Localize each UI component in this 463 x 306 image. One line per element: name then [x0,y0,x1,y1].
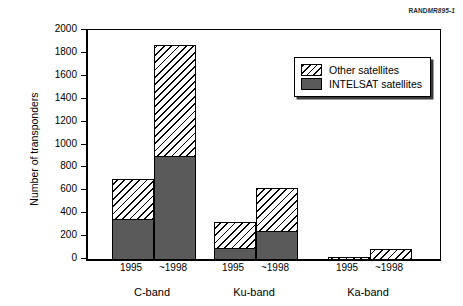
legend-swatch-solid-icon [301,78,322,90]
bar-segment-solid [154,156,196,259]
bar-c-band-1995 [112,179,154,259]
x-axis-tick-label: ~1998 [375,262,403,273]
bar-c-band-approx1998 [154,45,196,259]
y-axis-tick: 800 [81,166,88,167]
bar-ku-band-approx1998 [256,188,298,259]
bar-segment-hatch [112,179,154,219]
y-axis-tick: 600 [81,189,88,190]
bar-ka-band-approx1998 [370,249,412,259]
legend-label: INTELSAT satellites [329,78,422,90]
legend-swatch-hatch-icon [301,64,322,76]
x-axis-group-label: C-band [134,286,170,298]
y-axis-title: Number of transponders [28,54,40,244]
y-axis-tick-label: 1800 [55,46,77,57]
y-axis-tick: 400 [81,212,88,213]
y-axis-tick: 2000 [81,29,88,30]
y-axis-tick: 1200 [81,121,88,122]
x-axis-tick-label: 1995 [336,262,358,273]
y-axis-tick-label: 800 [60,160,77,171]
bar-segment-solid [112,219,154,259]
chart-legend: Other satellites INTELSAT satellites [294,57,431,97]
x-axis-group-label: Ka-band [347,286,389,298]
bar-segment-hatch [256,188,298,231]
bar-segment-solid [256,231,298,259]
bar-ku-band-1995 [214,222,256,259]
legend-item-other-satellites: Other satellites [301,63,422,77]
y-axis-tick: 1400 [81,98,88,99]
bar-ka-band-1995 [328,257,370,259]
bar-segment-solid [214,248,256,259]
bar-chart-figure: Number of transponders 02004006008001000… [0,0,463,306]
y-axis-tick-label: 1000 [55,138,77,149]
x-axis-group-label: Ku-band [233,286,275,298]
y-axis-tick: 1000 [81,144,88,145]
x-axis: 1995~19981995~19981995~1998C-bandKu-band… [86,262,438,306]
y-axis-tick-label: 2000 [55,23,77,34]
y-axis-tick-label: 1400 [55,92,77,103]
y-axis-tick: 0 [81,258,88,259]
y-axis-tick-label: 1600 [55,69,77,80]
y-axis-tick-label: 0 [71,252,77,263]
legend-item-intelsat-satellites: INTELSAT satellites [301,77,422,91]
x-axis-tick-label: ~1998 [261,262,289,273]
bar-segment-hatch [328,257,370,259]
y-axis-tick-label: 600 [60,183,77,194]
y-axis-tick-label: 200 [60,229,77,240]
y-axis-tick-label: 1200 [55,115,77,126]
x-axis-tick-label: 1995 [120,262,142,273]
y-axis-tick: 200 [81,235,88,236]
y-axis-tick-label: 400 [60,206,77,217]
x-axis-tick-label: 1995 [222,262,244,273]
bar-segment-hatch [154,45,196,156]
bar-segment-hatch [214,222,256,247]
y-axis-tick: 1600 [81,75,88,76]
legend-label: Other satellites [329,64,399,76]
x-axis-tick-label: ~1998 [159,262,187,273]
y-axis-tick: 1800 [81,52,88,53]
bar-segment-hatch [370,249,412,259]
